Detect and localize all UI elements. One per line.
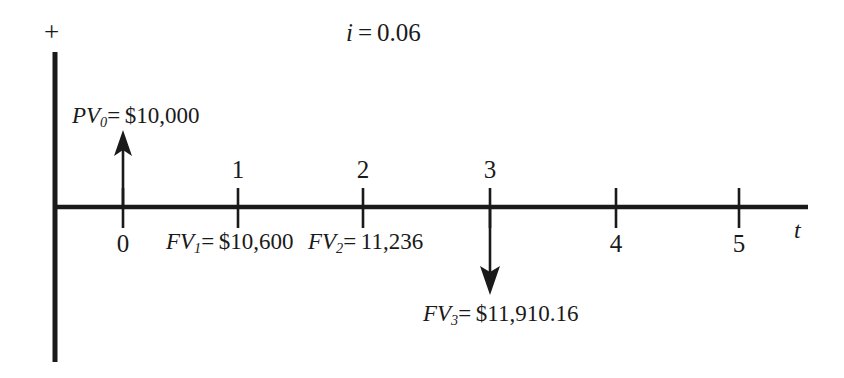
- fv3-subscript: 3: [451, 312, 458, 328]
- cash-flow-label-fv3: FV3= $11,910.16: [423, 302, 578, 325]
- cash-flow-label-fv1: FV1= $10,600: [166, 230, 294, 253]
- period-label-0: 0: [103, 231, 143, 256]
- interest-rate-annotation: i = 0.06: [346, 20, 421, 45]
- fv1-symbol: FV: [166, 229, 194, 254]
- fv3-symbol: FV: [423, 301, 451, 326]
- time-line-figure: + i = 0.06 t 0 1 2 3 4 5 PV0= $10,000 FV…: [0, 0, 844, 378]
- pv0-value: $10,000: [125, 103, 200, 128]
- fv1-equals: =: [201, 229, 214, 254]
- fv3-equals: =: [458, 301, 471, 326]
- time-line-canvas: [0, 0, 844, 378]
- period-label-1: 1: [218, 157, 258, 182]
- cash-flow-label-fv2: FV2= 11,236: [308, 230, 423, 253]
- interest-rate-value: 0.06: [377, 19, 421, 46]
- fv2-symbol: FV: [308, 229, 336, 254]
- cash-flow-arrow-pv0: [114, 130, 132, 207]
- fv2-equals: =: [343, 229, 356, 254]
- positive-axis-sign: +: [44, 19, 59, 46]
- interest-rate-equals: =: [358, 19, 372, 46]
- interest-rate-symbol: i: [346, 19, 353, 46]
- cash-flow-label-pv0: PV0= $10,000: [72, 104, 200, 127]
- period-label-5: 5: [719, 231, 759, 256]
- period-label-3: 3: [470, 157, 510, 182]
- time-axis-label: t: [794, 218, 801, 242]
- period-label-4: 4: [596, 231, 636, 256]
- pv0-equals: =: [107, 103, 120, 128]
- period-label-2: 2: [343, 157, 383, 182]
- fv2-value: 11,236: [361, 229, 423, 254]
- fv1-value: $10,600: [219, 229, 294, 254]
- fv3-value: $11,910.16: [476, 301, 579, 326]
- fv1-subscript: 1: [194, 240, 201, 256]
- pv0-subscript: 0: [100, 114, 107, 130]
- fv2-subscript: 2: [336, 240, 343, 256]
- pv0-symbol: PV: [72, 103, 100, 128]
- cash-flow-arrow-fv3: [480, 207, 500, 295]
